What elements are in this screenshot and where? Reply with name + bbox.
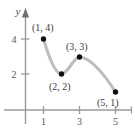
y-axis-label: y [15, 5, 21, 17]
data-point-label-1-4: (1, 4) [32, 22, 54, 34]
data-point-marker [77, 54, 82, 59]
data-point-label-5-1: (5, 1) [97, 97, 119, 109]
plot-svg: y 4 2 1 3 5 (1, 4) (2, 2) (3, 3) (5, 1) [0, 0, 135, 134]
data-point-marker [41, 36, 46, 41]
y-tick-label-2: 2 [12, 69, 17, 80]
x-tick-label-5: 5 [113, 116, 118, 127]
x-tick-label-3: 3 [77, 116, 82, 127]
y-axis-arrow-icon [22, 8, 29, 18]
y-tick-label-4: 4 [12, 34, 17, 45]
data-point-marker [113, 89, 118, 94]
data-point-marker [59, 71, 64, 76]
data-point-label-2-2: (2, 2) [49, 81, 71, 93]
coordinate-plane-curve-figure: y 4 2 1 3 5 (1, 4) (2, 2) (3, 3) (5, 1) [0, 0, 135, 134]
x-tick-label-1: 1 [41, 116, 46, 127]
data-point-label-3-3: (3, 3) [66, 41, 88, 53]
